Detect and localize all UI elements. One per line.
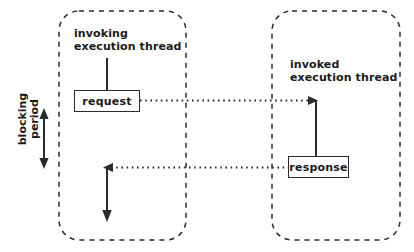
invoking-resume-arrowhead <box>102 210 112 222</box>
request-box[interactable]: request <box>74 90 140 112</box>
invoked-thread-label: invoked execution thread <box>290 58 398 84</box>
blocking-period-arrowhead-down <box>39 158 48 169</box>
invoking-thread-label: invoking execution thread <box>74 27 182 53</box>
response-box[interactable]: response <box>288 156 349 178</box>
blocking-period-label: blocking period <box>17 87 39 151</box>
diagram-vector-layer <box>0 0 414 252</box>
diagram-canvas: invoking execution thread invoked execut… <box>0 0 414 252</box>
invoked-thread-panel <box>272 11 400 240</box>
